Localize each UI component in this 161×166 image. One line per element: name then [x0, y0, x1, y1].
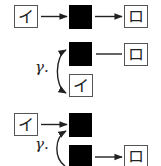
- row1-input-glyph-box: イ: [14, 5, 38, 28]
- row3-input-glyph-box: イ: [14, 113, 38, 136]
- row1-black-node: [69, 5, 92, 29]
- row3-input-glyph: イ: [18, 117, 34, 133]
- row3-curved-arrow: [57, 131, 66, 166]
- row1-input-glyph: イ: [18, 9, 34, 25]
- row3-gamma-label: γ.: [35, 137, 49, 152]
- row1-output-glyph: ロ: [128, 9, 144, 25]
- row2-output-glyph: ロ: [128, 47, 144, 63]
- row3-output-glyph: ロ: [128, 149, 144, 165]
- row2-black-node: [69, 42, 92, 66]
- row1-output-glyph-box: ロ: [124, 5, 148, 28]
- row3-output-glyph-box: ロ: [124, 145, 148, 166]
- diagram-canvas: イ ロ ロ γ. イ イ γ. ロ: [0, 0, 161, 166]
- row2-gamma-label: γ.: [35, 60, 49, 75]
- row3-bottom-black-node: [69, 145, 92, 166]
- row3-top-black-node: [69, 113, 92, 137]
- row2-bottom-glyph-box: イ: [69, 74, 93, 97]
- row2-output-glyph-box: ロ: [124, 43, 148, 66]
- row2-bottom-glyph: イ: [73, 78, 89, 94]
- row2-curved-double-arrow: [57, 50, 66, 93]
